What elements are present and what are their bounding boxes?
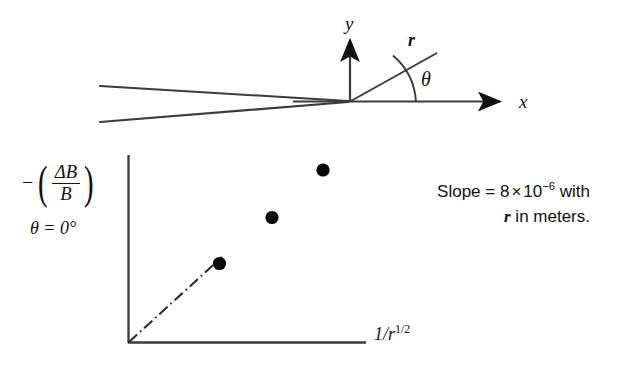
slope-line2-variable: r — [504, 207, 511, 226]
data-point — [265, 211, 278, 224]
diagram-angle-label: θ — [421, 69, 431, 89]
figure-container: y x r θ −(ΔBB) θ = 0° 1/r1/2 Slope = 8×1… — [0, 0, 632, 383]
angle-arc — [393, 56, 416, 102]
left-paren: ( — [38, 165, 48, 200]
plot-x-axis-label: 1/r1/2 — [374, 325, 410, 343]
slope-line1-prefix: Slope = 8 — [437, 182, 509, 201]
slope-line1-suffix: with — [560, 182, 590, 201]
power-exponent: −6 — [542, 180, 555, 192]
times-symbol: × — [509, 182, 523, 201]
diagram-x-axis-label: x — [519, 92, 527, 111]
slope-line2-text: in meters. — [515, 207, 590, 226]
x-axis-exponent: 1/2 — [395, 322, 410, 336]
fraction-numerator: ΔB — [52, 163, 80, 184]
fraction-denominator: B — [52, 184, 80, 204]
power-base: 10 — [523, 182, 542, 201]
right-paren: ) — [84, 165, 94, 200]
crack-wedge — [100, 86, 348, 122]
x-axis-prefix: 1/r — [374, 324, 395, 344]
minus-sign: − — [22, 173, 35, 193]
diagram-y-axis-label: y — [345, 14, 353, 33]
plot-y-axis-label: −(ΔBB) — [22, 163, 97, 203]
slope-annotation: Slope = 8×10−6 with r in meters. — [358, 180, 590, 229]
data-point — [316, 163, 329, 176]
data-point — [213, 257, 226, 270]
delta-b-over-b-fraction: ΔBB — [52, 163, 80, 203]
plot-theta-condition-label: θ = 0° — [30, 219, 76, 237]
diagram-radial-label: r — [408, 31, 415, 49]
linear-fit-line — [129, 257, 222, 342]
data-point-group — [213, 163, 330, 270]
